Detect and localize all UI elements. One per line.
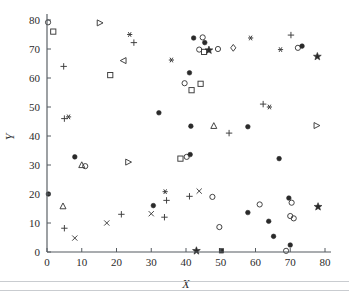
data-point-cross	[104, 220, 109, 225]
footer-divider-top	[0, 281, 349, 282]
y-tick-label: 10	[29, 217, 41, 229]
data-point-plus	[61, 225, 67, 231]
y-tick-label: 20	[29, 188, 41, 200]
data-point-star	[193, 247, 201, 254]
data-point-square-open	[51, 29, 56, 34]
plot-canvas: 0102030405060708001020304050607080 X Y	[0, 0, 349, 297]
data-point-cross	[197, 189, 202, 194]
data-point-asterisk	[248, 36, 253, 41]
x-axis-title: X	[181, 277, 190, 291]
data-point-triangle-up-open	[211, 123, 217, 129]
data-point-square-open	[178, 156, 183, 161]
data-point-asterisk	[163, 189, 168, 194]
data-point-circle-filled	[246, 124, 251, 129]
data-point-circle-open	[217, 224, 222, 229]
data-markers-layer	[45, 20, 322, 254]
data-point-triangle-left-open	[120, 58, 126, 64]
data-point-plus	[186, 193, 192, 199]
data-point-circle-filled	[191, 36, 196, 41]
data-point-circle-filled	[187, 70, 192, 75]
data-point-circle-open	[210, 194, 215, 199]
data-point-triangle-up-open	[60, 203, 66, 209]
footer-divider-bottom	[0, 290, 349, 291]
data-point-cross	[149, 211, 154, 216]
x-tick-label: 50	[215, 256, 227, 268]
data-point-circle-filled	[288, 243, 293, 248]
data-point-circle-open	[289, 200, 294, 205]
x-tick-label: 70	[285, 256, 297, 268]
y-tick-label: 60	[29, 72, 41, 84]
data-point-plus	[288, 32, 294, 38]
data-point-circle-filled	[287, 196, 292, 201]
data-point-star	[313, 52, 321, 59]
data-point-circle-filled	[300, 44, 305, 49]
data-point-circle-open	[283, 248, 288, 253]
x-tick-label: 80	[320, 256, 332, 268]
data-point-square-open	[189, 88, 194, 93]
data-point-plus	[61, 115, 67, 121]
data-point-circle-open	[184, 154, 189, 159]
data-point-square-open	[108, 73, 113, 78]
x-tick-label: 20	[111, 256, 123, 268]
data-point-asterisk	[127, 32, 132, 37]
data-point-cross	[72, 235, 77, 240]
data-point-circle-filled	[151, 203, 156, 208]
data-point-triangle-up-open	[79, 162, 85, 168]
data-point-circle-open	[215, 46, 220, 51]
y-tick-label: 50	[29, 101, 41, 113]
data-point-plus	[226, 130, 232, 136]
data-point-circle-open	[200, 35, 205, 40]
axis-labels-layer: 0102030405060708001020304050607080	[29, 14, 331, 268]
data-point-circle-filled	[189, 124, 194, 129]
data-point-square-open	[198, 81, 203, 86]
data-point-circle-filled	[246, 210, 251, 215]
data-point-circle-filled	[73, 155, 78, 160]
data-point-plus	[60, 63, 66, 69]
scatter-plot-figure: 0102030405060708001020304050607080 X Y	[0, 0, 349, 297]
x-tick-label: 10	[76, 256, 88, 268]
data-point-circle-open	[257, 202, 262, 207]
data-point-star	[314, 203, 322, 210]
data-point-plus	[163, 197, 169, 203]
data-point-square-open	[201, 49, 206, 54]
y-tick-label: 80	[29, 14, 41, 26]
data-point-circle-filled	[157, 111, 162, 116]
data-point-plus	[118, 211, 124, 217]
axes-layer	[47, 14, 331, 252]
data-point-plus	[161, 214, 167, 220]
y-tick-label: 70	[29, 43, 41, 55]
data-point-triangle-right-open	[314, 123, 320, 129]
data-point-circle-filled	[271, 234, 276, 239]
data-point-plus	[131, 39, 137, 45]
x-tick-label: 0	[44, 256, 50, 268]
data-point-triangle-right-open	[97, 20, 103, 26]
data-point-circle-filled	[202, 40, 207, 45]
x-tick-label: 30	[146, 256, 158, 268]
data-point-asterisk	[169, 58, 174, 63]
y-axis-title: Y	[3, 132, 17, 140]
data-point-circle-filled	[277, 156, 282, 161]
y-tick-label: 40	[29, 130, 41, 142]
data-point-asterisk	[278, 47, 283, 52]
data-point-plus	[260, 101, 266, 107]
data-point-asterisk	[267, 105, 272, 110]
y-tick-label: 0	[35, 246, 41, 258]
data-point-diamond-open	[231, 44, 236, 51]
data-point-circle-filled	[266, 219, 271, 224]
x-tick-label: 60	[250, 256, 262, 268]
y-tick-label: 30	[29, 159, 41, 171]
data-point-circle-open	[182, 81, 187, 86]
x-tick-label: 40	[181, 256, 193, 268]
data-point-triangle-right-open	[126, 159, 132, 165]
